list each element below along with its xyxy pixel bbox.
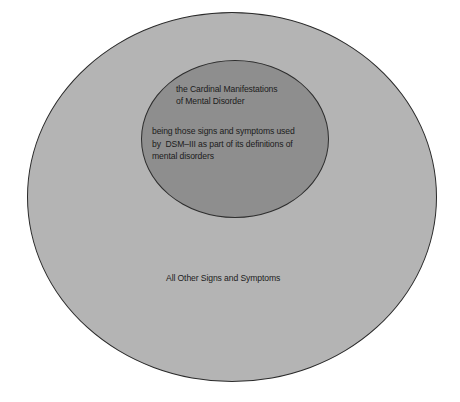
description-line: being those signs and symptoms used	[152, 125, 295, 138]
cardinal-manifestations-title: the Cardinal Manifestations of Mental Di…	[176, 84, 277, 107]
cardinal-manifestations-description: being those signs and symptoms used by D…	[152, 125, 295, 163]
title-line: the Cardinal Manifestations	[176, 84, 277, 96]
description-line: by DSM–III as part of its definitions of	[152, 138, 295, 151]
all-other-signs-label: All Other Signs and Symptoms	[166, 273, 280, 285]
title-line: of Mental Disorder	[176, 96, 277, 108]
description-line: mental disorders	[152, 150, 295, 163]
nested-set-diagram: the Cardinal Manifestations of Mental Di…	[0, 0, 460, 402]
